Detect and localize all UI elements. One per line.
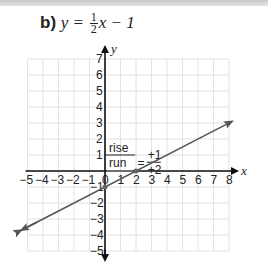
y-tick-label: −4 [90, 228, 104, 242]
rise-label: rise [109, 141, 129, 155]
x-tick-label: 4 [164, 173, 171, 187]
y-tick-label: 1 [96, 148, 103, 162]
x-tick-label: −5 [20, 173, 34, 187]
x-tick-label: 8 [226, 173, 233, 187]
y-tick-label: 7 [96, 52, 103, 66]
y-tick-label: −5 [90, 244, 104, 258]
x-tick-label: −2 [66, 173, 80, 187]
x-tick-label: 6 [195, 173, 202, 187]
rise-value: +1 [148, 148, 162, 162]
line-left-arrow [21, 222, 37, 230]
x-tick-label: −3 [51, 173, 65, 187]
y-tick-label: 2 [96, 132, 103, 146]
x-tick-label: 5 [180, 173, 187, 187]
y-tick-label: −3 [90, 212, 104, 226]
run-label: run [109, 156, 126, 170]
y-tick-label: 3 [96, 116, 103, 130]
x-tick-label: 3 [149, 173, 156, 187]
coordinate-plane: riserun=+1+2xy−5−4−3−2−1012345678−5−4−3−… [0, 0, 268, 271]
y-tick-label: 6 [96, 68, 103, 82]
x-tick-label: −4 [35, 173, 49, 187]
intercept-point [103, 185, 108, 190]
x-tick-label: 7 [211, 173, 218, 187]
x-tick-label: 2 [133, 173, 140, 187]
y-tick-label: 4 [96, 100, 103, 114]
y-axis-label: y [109, 41, 117, 56]
intercept-point [134, 169, 139, 174]
y-tick-label: −2 [90, 196, 104, 210]
x-axis-label: x [240, 163, 247, 178]
y-tick-label: 5 [96, 84, 103, 98]
